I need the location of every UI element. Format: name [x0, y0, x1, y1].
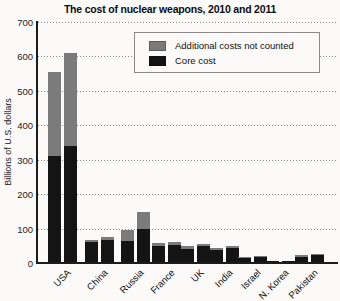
- core-cost-segment: [181, 249, 194, 263]
- additional-cost-segment: [121, 230, 134, 241]
- bar-2011: [101, 237, 114, 263]
- bar-2010: [85, 240, 98, 263]
- bar-2011: [197, 244, 210, 263]
- legend-label: Core cost: [175, 55, 216, 66]
- core-cost-segment: [101, 240, 114, 263]
- y-tick-label-700: 700: [0, 17, 33, 28]
- y-tick-label-200: 200: [0, 189, 33, 200]
- additional-swatch-icon: [149, 41, 166, 51]
- bar-2010: [48, 72, 61, 263]
- legend-rows: Additional costs not countedCore cost: [149, 38, 319, 68]
- legend-label: Additional costs not counted: [175, 40, 294, 51]
- y-tick-label-600: 600: [0, 51, 33, 62]
- y-tick-label-100: 100: [0, 223, 33, 234]
- x-axis-line: [36, 262, 338, 264]
- core-cost-segment: [152, 246, 165, 263]
- core-cost-segment: [64, 146, 77, 263]
- core-cost-segment: [85, 242, 98, 263]
- core-cost-segment: [121, 241, 134, 263]
- core-swatch-icon: [149, 56, 166, 66]
- bar-2010: [121, 230, 134, 263]
- bar-2011: [137, 212, 150, 263]
- additional-cost-segment: [48, 72, 61, 156]
- bar-pair-china: [85, 22, 114, 263]
- core-cost-segment: [168, 245, 181, 263]
- core-cost-segment: [197, 246, 210, 263]
- core-cost-segment: [48, 156, 61, 263]
- bar-2010: [152, 243, 165, 263]
- y-tick-label-500: 500: [0, 85, 33, 96]
- bar-pair-usa: [48, 22, 77, 263]
- y-tick-label-0: 0: [0, 258, 33, 269]
- nuclear-weapons-cost-chart: The cost of nuclear weapons, 2010 and 20…: [0, 0, 340, 301]
- legend-item-core: Core cost: [149, 53, 319, 68]
- y-tick-label-400: 400: [0, 120, 33, 131]
- additional-cost-segment: [64, 53, 77, 146]
- bar-2010: [210, 248, 223, 263]
- bar-2010: [181, 246, 194, 263]
- core-cost-segment: [137, 229, 150, 263]
- plot-area: 0100200300400500600700 USAChinaRussiaFra…: [0, 0, 340, 301]
- additional-cost-segment: [137, 212, 150, 229]
- bar-2011: [64, 53, 77, 263]
- y-tick-label-300: 300: [0, 154, 33, 165]
- legend: Additional costs not countedCore cost: [134, 32, 320, 73]
- legend-item-additional: Additional costs not counted: [149, 38, 319, 53]
- x-label-usa: USA: [21, 267, 73, 301]
- bar-2011: [168, 242, 181, 263]
- y-axis-line: [36, 21, 38, 263]
